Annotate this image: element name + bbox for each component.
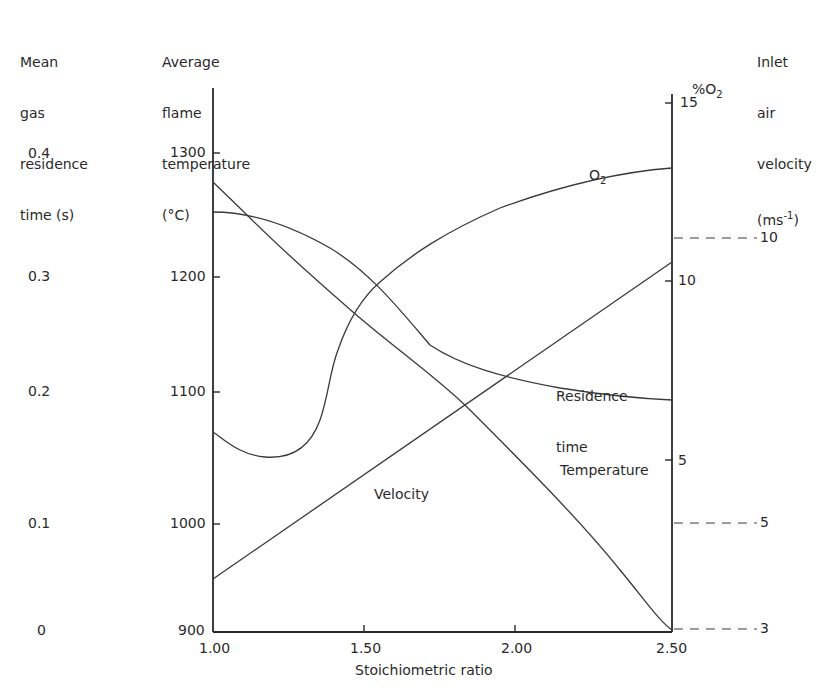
temperature-curve-label: Temperature xyxy=(560,462,649,479)
o2-curve-label-sub: 2 xyxy=(600,175,606,186)
o2-curve-label: O2 xyxy=(580,150,606,189)
velocity-curve-label: Velocity xyxy=(374,486,429,503)
left-tick-marks xyxy=(213,153,220,524)
residence-label-line: Residence xyxy=(556,388,628,405)
residence-label-line: time xyxy=(556,439,628,456)
x-tick-marks xyxy=(364,625,515,632)
o2-curve-label-text: O xyxy=(589,167,600,183)
chart-plot xyxy=(0,0,822,692)
right-tick-marks xyxy=(665,103,672,460)
residence-time-curve-label: Residence time xyxy=(556,354,628,473)
